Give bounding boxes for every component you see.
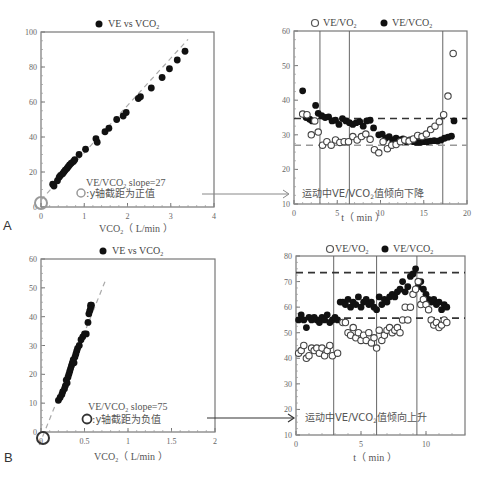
data-point-open xyxy=(376,150,382,156)
y-tick-label: 30 xyxy=(29,342,37,351)
y-tick-label: 50 xyxy=(282,62,290,71)
y-tick-label: 10 xyxy=(29,399,37,408)
data-point-filled xyxy=(166,65,173,72)
data-point-open xyxy=(308,132,314,138)
y-tick-label: 80 xyxy=(29,63,37,72)
data-point-open xyxy=(407,304,413,310)
data-point-open xyxy=(425,307,431,313)
chart-b-right: 10203040506070800510 VE/VO2 VE/VCO2 运动中V… xyxy=(284,243,465,463)
legend-filled-dot-icon xyxy=(100,248,107,255)
data-point-filled xyxy=(336,121,343,128)
x-tick-label: 1.5 xyxy=(167,437,177,446)
data-point-filled xyxy=(159,74,166,81)
data-point-filled xyxy=(367,117,374,124)
data-point-filled xyxy=(94,139,101,146)
data-point-open xyxy=(312,118,318,124)
data-point-open xyxy=(350,324,356,330)
data-point-filled xyxy=(451,118,458,125)
data-point-open xyxy=(373,345,379,351)
x-tick-label: 2 xyxy=(213,437,217,446)
y-tick-label: 60 xyxy=(29,255,37,264)
legend-filled-dot-icon xyxy=(96,21,103,28)
data-point-filled xyxy=(148,85,155,92)
x-tick-label: 5 xyxy=(359,440,363,449)
data-point-filled xyxy=(182,48,189,55)
x-tick-label: 5 xyxy=(335,209,339,218)
x-axis-label: t（ min ） xyxy=(341,212,384,223)
legend-ve-vco2: VE/VCO2 xyxy=(392,17,432,29)
data-point-open xyxy=(301,342,307,348)
data-point-open xyxy=(376,327,382,333)
x-tick-label: 4 xyxy=(212,212,216,221)
data-point-filled xyxy=(85,319,92,326)
data-point-filled xyxy=(82,146,89,153)
legend-ve-vo2: VE/VO2 xyxy=(323,17,357,29)
y-tick-label: 20 xyxy=(29,168,37,177)
data-point-filled xyxy=(174,57,181,64)
data-point-open xyxy=(327,342,333,348)
arrow-a xyxy=(202,190,289,198)
data-point-filled xyxy=(303,324,310,331)
data-point-open xyxy=(415,278,421,284)
data-point-filled xyxy=(64,380,71,387)
y-tick-label: 20 xyxy=(29,370,37,379)
legend-ve-vo2: VE/VO2 xyxy=(335,243,369,255)
y-tick-label: 30 xyxy=(284,380,292,389)
intercept-annotation: :y轴截距为正值 xyxy=(86,187,155,199)
y-tick-label: 40 xyxy=(284,354,292,363)
x-tick-label: 2 xyxy=(126,212,130,221)
data-point-open xyxy=(405,317,411,323)
data-point-filled xyxy=(373,306,380,313)
arrow-b xyxy=(207,414,294,422)
y-tick-label: 10 xyxy=(282,200,290,209)
y-tick-label: 0 xyxy=(33,428,37,437)
legend-open-dot-icon xyxy=(312,20,319,27)
y-tick-label: 10 xyxy=(284,431,292,440)
data-point-filled xyxy=(71,359,78,366)
legend-ve-vs-vco2: VE vs VCO2 xyxy=(112,245,163,257)
data-point-open xyxy=(440,112,446,118)
data-point-filled xyxy=(83,331,90,338)
data-point-filled xyxy=(404,283,411,290)
data-point-filled xyxy=(412,265,419,272)
data-point-filled xyxy=(370,124,377,131)
data-point-open xyxy=(306,353,312,359)
y-tick-label: 80 xyxy=(284,252,292,261)
figure-canvas: 02040608010001234 VE vs VCO2 VE/VCO2 slo… xyxy=(0,0,484,478)
panel-label-a: A xyxy=(3,218,12,233)
y-tick-label: 60 xyxy=(29,98,37,107)
data-point-open xyxy=(380,139,386,145)
legend-filled-dot-icon xyxy=(381,20,388,27)
y-tick-label: 60 xyxy=(284,303,292,312)
data-point-open xyxy=(371,335,377,341)
intercept-legend-circle-icon xyxy=(77,189,85,197)
data-point-open xyxy=(436,118,442,124)
legend-open-dot-icon xyxy=(327,246,334,253)
data-point-open xyxy=(444,319,450,325)
data-point-filled xyxy=(137,93,144,100)
panel-label-b: B xyxy=(4,450,13,465)
data-point-filled xyxy=(448,133,455,140)
slope-annotation: VE/VCO2 slope=75 xyxy=(88,401,167,413)
data-point-filled xyxy=(299,87,306,94)
x-tick-label: 1 xyxy=(82,212,86,221)
data-point-open xyxy=(315,129,321,135)
chart-a-right: 10203040506005101520 VE/VO2 VE/VCO2 运动中V… xyxy=(282,17,471,223)
x-tick-label: 0.5 xyxy=(80,437,90,446)
x-axis-label: VCO2（ L/min ） xyxy=(94,451,168,463)
x-tick-label: 10 xyxy=(422,440,430,449)
data-point-open xyxy=(342,319,348,325)
legend-ve-vco2: VE/VCO2 xyxy=(393,243,433,255)
intercept-annotation: :y轴截距为负值 xyxy=(92,413,161,425)
y-tick-label: 20 xyxy=(282,165,290,174)
data-point-filled xyxy=(106,125,113,132)
data-point-open xyxy=(412,286,418,292)
y-tick-label: 60 xyxy=(282,27,290,36)
y-tick-label: 70 xyxy=(284,278,292,287)
data-point-open xyxy=(450,50,456,56)
y-tick-label: 40 xyxy=(29,133,37,142)
legend-filled-dot-icon xyxy=(382,246,389,253)
data-point-open xyxy=(304,112,310,118)
data-point-open xyxy=(397,330,403,336)
data-point-filled xyxy=(443,304,450,311)
